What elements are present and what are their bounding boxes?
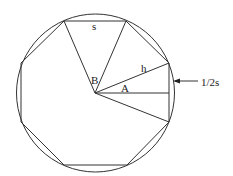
label-h: h bbox=[141, 62, 147, 74]
label-half-side: 1/2s bbox=[201, 76, 219, 88]
octagon-diagram: s B h A 1/2s bbox=[0, 0, 233, 176]
label-angle-b: B bbox=[91, 74, 98, 86]
label-side-s: s bbox=[92, 20, 96, 32]
radius-lower-right bbox=[95, 93, 169, 122]
label-angle-a: A bbox=[121, 82, 129, 94]
